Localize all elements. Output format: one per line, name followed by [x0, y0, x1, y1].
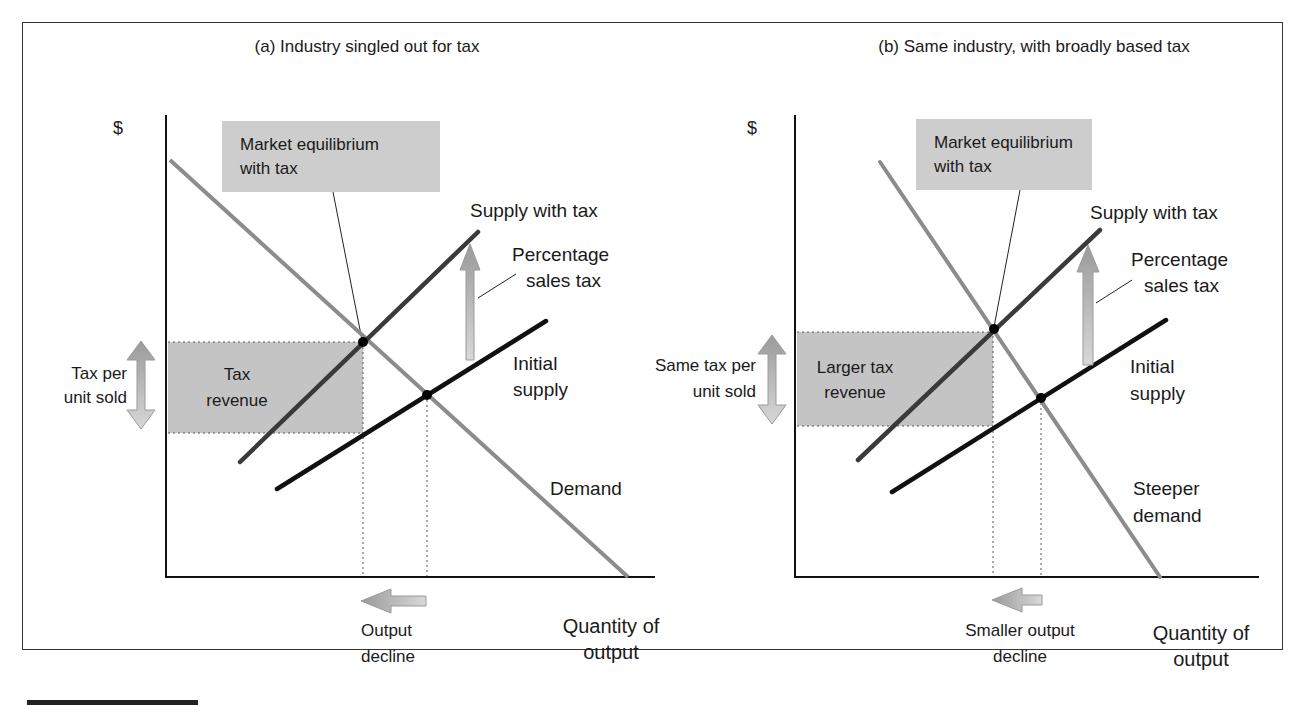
- tax-per-unit-label-1: Tax per: [71, 364, 127, 383]
- same-tax-per-unit-label-2: unit sold: [693, 382, 756, 401]
- steeper-demand-label-1: Steeper: [1133, 478, 1200, 499]
- initial-supply-label-1: Initial: [1130, 356, 1174, 377]
- tax-per-unit-double-arrow-icon: [758, 335, 786, 424]
- equilibrium-with-tax-point: [989, 324, 999, 334]
- tax-revenue-area: [168, 342, 363, 433]
- percentage-tax-label-2: sales tax: [526, 270, 601, 291]
- callout-leader: [333, 192, 362, 340]
- callout-line-1: Market equilibrium: [240, 135, 379, 154]
- tax-per-unit-double-arrow-icon: [127, 341, 155, 429]
- output-decline-label-1: Output: [361, 621, 412, 640]
- initial-supply-label-2: supply: [513, 379, 568, 400]
- x-axis-label-2: output: [1173, 648, 1229, 670]
- panel-a-title: (a) Industry singled out for tax: [255, 37, 480, 56]
- smaller-output-decline-arrow-icon: [992, 588, 1042, 612]
- percentage-tax-label-1: Percentage: [512, 244, 609, 265]
- revenue-label-1: Tax: [224, 365, 251, 384]
- y-axis-label: $: [747, 118, 757, 138]
- revenue-label-1: Larger tax: [817, 358, 894, 377]
- output-decline-label-1: Smaller output: [965, 621, 1075, 640]
- panel-b: (b) Same industry, with broadly based ta…: [655, 37, 1259, 670]
- equilibrium-callout-box: [222, 121, 440, 192]
- percentage-tax-label-2: sales tax: [1144, 275, 1219, 296]
- callout-line-1: Market equilibrium: [934, 133, 1073, 152]
- tax-label-leader: [1096, 280, 1132, 303]
- steeper-demand-label-2: demand: [1133, 505, 1202, 526]
- tax-shift-arrow-icon: [1077, 245, 1099, 365]
- initial-equilibrium-point: [422, 390, 432, 400]
- revenue-label-2: revenue: [824, 383, 885, 402]
- tax-incidence-diagram: (a) Industry singled out for tax $ Marke…: [0, 0, 1298, 705]
- x-axis-label-1: Quantity of: [1153, 622, 1250, 644]
- output-decline-label-2: decline: [993, 647, 1047, 666]
- initial-supply-label-2: supply: [1130, 383, 1185, 404]
- panel-b-title: (b) Same industry, with broadly based ta…: [878, 37, 1190, 56]
- larger-tax-revenue-area: [797, 332, 993, 426]
- same-tax-per-unit-label-1: Same tax per: [655, 356, 756, 375]
- panel-a: (a) Industry singled out for tax $ Marke…: [64, 37, 660, 666]
- equilibrium-callout-box: [916, 119, 1092, 190]
- equilibrium-with-tax-point: [358, 337, 368, 347]
- tax-label-leader: [478, 274, 516, 298]
- callout-line-2: with tax: [239, 159, 298, 178]
- output-decline-arrow-icon: [361, 589, 426, 613]
- tax-shift-arrow-icon: [460, 244, 480, 360]
- supply-with-tax-label: Supply with tax: [470, 200, 598, 221]
- output-decline-label-2: decline: [361, 647, 415, 666]
- demand-label: Demand: [550, 478, 622, 499]
- initial-supply-label-1: Initial: [513, 353, 557, 374]
- supply-with-tax-label: Supply with tax: [1090, 202, 1218, 223]
- initial-equilibrium-point: [1036, 393, 1046, 403]
- x-axis-label-2: output: [583, 641, 639, 663]
- y-axis-label: $: [113, 118, 123, 138]
- revenue-label-2: revenue: [206, 391, 267, 410]
- callout-leader: [994, 190, 1020, 327]
- percentage-tax-label-1: Percentage: [1131, 249, 1228, 270]
- tax-per-unit-label-2: unit sold: [64, 388, 127, 407]
- callout-line-2: with tax: [933, 157, 992, 176]
- x-axis-label-1: Quantity of: [563, 615, 660, 637]
